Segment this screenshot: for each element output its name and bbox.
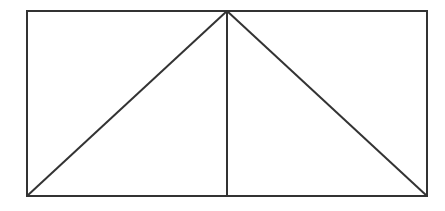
geometry-figure	[0, 0, 445, 211]
left-diagonal	[27, 11, 227, 196]
diagram-canvas	[0, 0, 445, 211]
right-diagonal	[227, 11, 427, 196]
